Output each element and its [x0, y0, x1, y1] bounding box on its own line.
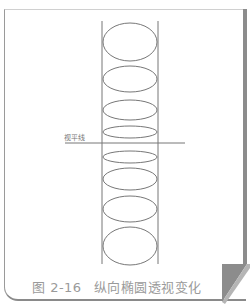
ellipse-6: [103, 168, 157, 190]
ellipse-3: [103, 100, 157, 120]
ellipse-5: [103, 151, 157, 163]
figure-caption: 图 2-16纵向椭圆透视变化: [32, 277, 202, 296]
ellipse-2: [103, 66, 157, 92]
figure-number: 图 2-16: [32, 280, 82, 295]
ellipse-8: [103, 227, 157, 265]
ellipse-perspective-diagram: [0, 0, 252, 308]
ellipse-4: [103, 126, 157, 138]
ellipses: [103, 23, 157, 265]
horizon-label: 视平线: [64, 132, 85, 142]
ellipse-7: [103, 196, 157, 222]
figure-title: 纵向椭圆透视变化: [94, 280, 202, 295]
ellipse-1: [103, 23, 157, 61]
